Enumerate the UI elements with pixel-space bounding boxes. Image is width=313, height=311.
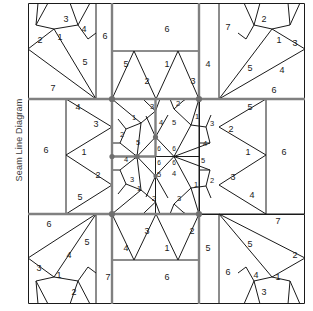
piece-label-tc-2: 2: [144, 76, 149, 86]
piece-label-tr-3: 3: [292, 38, 297, 48]
piece-label-tr-4: 4: [279, 65, 284, 75]
piece-label-bc-6: 6: [164, 272, 169, 282]
piece-label-c-6d: 6: [172, 159, 176, 166]
piece-label-tc-1: 1: [164, 59, 169, 69]
piece-label-bc-2: 2: [189, 226, 194, 236]
piece-label-c-bl-1: 1: [137, 184, 141, 193]
piece-label-c-tl-2: 2: [120, 130, 124, 139]
piece-label-c-tr-5: 5: [172, 118, 176, 127]
piece-label-mr-6: 6: [281, 147, 286, 157]
piece-label-c-br-4: 4: [172, 169, 176, 178]
piece-label-bc-4: 4: [123, 243, 128, 253]
piece-label-ml-4: 4: [75, 102, 80, 112]
piece-label-tc-6: 6: [164, 24, 169, 34]
diagram-side-label: Seam Line Diagram: [14, 80, 24, 200]
piece-label-br-4: 4: [253, 270, 258, 280]
piece-label-tl-2: 2: [37, 35, 42, 45]
piece-label-c-tr-1: 1: [195, 112, 199, 121]
piece-label-c-bl-3: 3: [130, 175, 134, 184]
seam-line-diagram-page: Seam Line Diagram: [0, 0, 313, 311]
piece-label-tl-6: 6: [102, 31, 107, 41]
piece-label-mr-4: 4: [249, 190, 254, 200]
piece-label-bc-5: 5: [205, 243, 210, 253]
piece-label-ml-5: 5: [77, 192, 82, 202]
piece-label-c-bl-5: 5: [157, 170, 161, 179]
piece-label-mr-2: 2: [228, 124, 233, 134]
piece-label-tl-5: 5: [82, 57, 87, 67]
piece-label-bl-7: 7: [105, 272, 110, 282]
piece-label-c-6a: 6: [157, 145, 161, 152]
piece-label-tc-3: 3: [190, 76, 195, 86]
piece-label-c-br-2: 2: [210, 176, 214, 185]
piece-label-c-tr-4: 4: [203, 139, 207, 148]
piece-label-tr-1: 1: [276, 35, 281, 45]
piece-label-br-7: 7: [275, 216, 280, 226]
piece-label-c-br-5: 5: [201, 156, 205, 165]
piece-label-c-tr-2: 2: [176, 99, 180, 108]
piece-label-tc-4: 4: [205, 59, 210, 69]
piece-label-c-br-1: 1: [194, 180, 198, 189]
piece-label-tl-7: 7: [50, 83, 55, 93]
piece-label-br-2: 2: [292, 250, 297, 260]
piece-label-ml-1: 1: [81, 147, 86, 157]
piece-label-tr-2: 2: [261, 14, 266, 24]
piece-label-c-6b: 6: [172, 145, 176, 152]
piece-label-tl-1: 1: [57, 32, 62, 42]
piece-label-tr-6: 6: [271, 85, 276, 95]
piece-label-bl-6: 6: [46, 219, 51, 229]
piece-label-bc-3: 3: [144, 226, 149, 236]
piece-label-bl-3: 3: [36, 263, 41, 273]
piece-label-tl-3: 3: [63, 14, 68, 24]
piece-label-mr-1: 1: [245, 147, 250, 157]
piece-label-c-tr-3: 3: [210, 119, 214, 128]
piece-label-ml-6: 6: [43, 145, 48, 155]
piece-label-bl-4: 4: [66, 250, 71, 260]
piece-label-tc-5: 5: [123, 59, 128, 69]
piece-label-c-bl-4: 4: [124, 155, 128, 164]
piece-label-c-br-3: 3: [177, 194, 181, 203]
piece-label-br-3: 3: [261, 287, 266, 297]
piece-label-tl-4: 4: [81, 24, 86, 34]
piece-label-c-tl-4: 4: [159, 118, 163, 127]
seam-line-diagram-figure: 3421657651423271354643612552613431425215…: [28, 3, 305, 304]
piece-label-bc-1: 1: [164, 243, 169, 253]
piece-label-tr-5: 5: [247, 63, 252, 73]
piece-label-br-1: 1: [275, 272, 280, 282]
piece-label-br-6: 6: [225, 267, 230, 277]
piece-label-tr-7: 7: [225, 22, 230, 32]
piece-label-bl-5: 5: [84, 237, 89, 247]
piece-label-br-5: 5: [247, 239, 252, 249]
piece-label-ml-3: 3: [93, 119, 98, 129]
piece-label-mr-3: 3: [230, 172, 235, 182]
piece-label-c-bl-2: 2: [152, 194, 156, 203]
piece-label-c-tl-1: 1: [132, 113, 136, 122]
piece-label-c-tl-5: 5: [136, 138, 140, 147]
piece-label-c-tl-3: 3: [150, 102, 154, 111]
piece-label-mr-5: 5: [247, 102, 252, 112]
piece-label-bl-2: 2: [71, 287, 76, 297]
piece-label-ml-2: 2: [95, 170, 100, 180]
piece-label-bl-1: 1: [56, 270, 61, 280]
piece-label-c-6c: 6: [157, 159, 161, 166]
